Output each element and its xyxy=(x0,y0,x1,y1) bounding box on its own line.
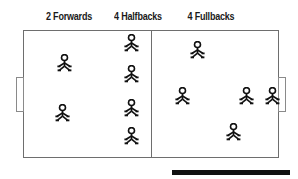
player-forward xyxy=(54,104,71,123)
stick-figure-icon xyxy=(264,87,281,106)
player-halfback xyxy=(123,65,140,84)
player-goalkeeper xyxy=(264,87,281,106)
player-halfback xyxy=(123,34,140,53)
stick-figure-icon xyxy=(123,65,140,84)
stick-figure-icon xyxy=(54,104,71,123)
player-fullback xyxy=(189,41,206,60)
group-label: 4 Fullbacks xyxy=(184,11,238,23)
stick-figure-icon xyxy=(238,87,255,106)
bottom-rule xyxy=(172,170,290,175)
stick-figure-icon xyxy=(189,41,206,60)
left-goal xyxy=(16,77,24,112)
player-forward xyxy=(56,54,73,73)
stick-figure-icon xyxy=(123,99,140,118)
group-label: 2 Forwards xyxy=(43,11,95,23)
halfway-line xyxy=(151,30,152,158)
player-fullback xyxy=(174,87,191,106)
stick-figure-icon xyxy=(225,123,242,142)
player-fullback xyxy=(238,87,255,106)
stick-figure-icon xyxy=(56,54,73,73)
player-fullback xyxy=(225,123,242,142)
player-halfback xyxy=(123,99,140,118)
stick-figure-icon xyxy=(123,34,140,53)
player-halfback xyxy=(123,127,140,146)
soccer-formation-diagram: 2 Forwards4 Halfbacks4 Fullbacks xyxy=(0,0,298,179)
stick-figure-icon xyxy=(123,127,140,146)
stick-figure-icon xyxy=(174,87,191,106)
group-label: 4 Halfbacks xyxy=(110,11,166,23)
